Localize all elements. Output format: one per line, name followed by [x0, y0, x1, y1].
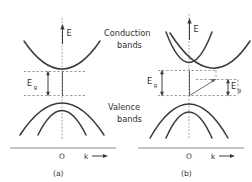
- gap-prime-mark-b: ′: [237, 80, 239, 86]
- conduction-bands-label-line1: Conduction: [104, 28, 151, 38]
- origin-label-b: O: [186, 152, 192, 161]
- panel-b: E E g E ′ g O k: [138, 14, 250, 178]
- indirect-transition-arrow-b: [190, 81, 215, 96]
- gap-label-a: E: [27, 78, 32, 88]
- valence-bands-label-line2: bands: [117, 114, 142, 124]
- energy-axis-label-a: E: [67, 28, 72, 38]
- panel-a: E E g O k (a): [10, 18, 116, 178]
- k-axis-label-b: k: [211, 152, 216, 161]
- k-arrowhead-a: [103, 154, 108, 158]
- panel-caption-b: (b): [181, 169, 192, 178]
- origin-label-a: O: [59, 152, 65, 161]
- k-arrowhead-b: [230, 154, 235, 158]
- valence-bands-label-line1: Valence: [108, 102, 140, 112]
- energy-arrowhead-a: [60, 24, 64, 30]
- conduction-bands-label-line2: bands: [117, 40, 142, 50]
- energy-arrowhead-b: [187, 18, 191, 24]
- panel-caption-a: (a): [53, 169, 64, 178]
- k-axis-label-a: k: [84, 152, 89, 161]
- band-structure-figure: E E g O k (a) Conduction bands Valence b…: [0, 0, 252, 182]
- band-text-labels: Conduction bands Valence bands: [104, 28, 151, 124]
- gap-prime-sub-b: g: [238, 87, 242, 94]
- gap-label-sub-a: g: [34, 84, 38, 91]
- gap-label-sub-b: g: [154, 82, 158, 89]
- gap-prime-label-b: E: [231, 81, 236, 91]
- figure-svg: E E g O k (a) Conduction bands Valence b…: [0, 0, 252, 182]
- gap-label-b: E: [147, 76, 152, 86]
- energy-axis-label-b: E: [194, 24, 199, 34]
